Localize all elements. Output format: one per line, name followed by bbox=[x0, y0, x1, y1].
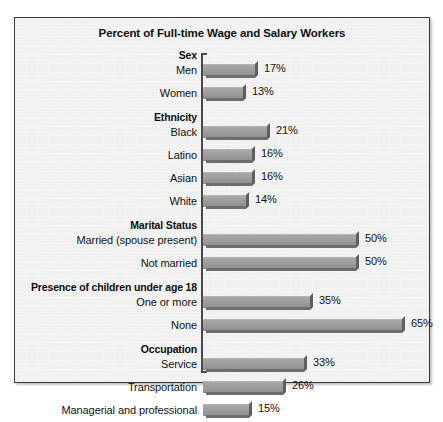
bar-row: Women13% bbox=[15, 86, 431, 109]
bar-row: Black21% bbox=[15, 125, 431, 148]
bar-row: Married (spouse present)50% bbox=[15, 233, 431, 256]
bar-shadow-end bbox=[243, 84, 246, 101]
bar-shadow-end bbox=[304, 355, 307, 372]
bar-value-label: 21% bbox=[276, 124, 298, 136]
category-label: Men bbox=[15, 63, 197, 77]
bar-shadow-end bbox=[283, 378, 286, 395]
bar-value-label: 14% bbox=[255, 193, 277, 205]
bar bbox=[203, 358, 304, 372]
group-heading: Occupation bbox=[15, 343, 197, 356]
bar-value-label: 33% bbox=[313, 356, 335, 368]
bar-shadow-end bbox=[356, 254, 359, 271]
bar-value-label: 35% bbox=[319, 294, 341, 306]
bar-row: Men17% bbox=[15, 63, 431, 86]
chart-title: Percent of Full-time Wage and Salary Wor… bbox=[15, 27, 429, 39]
bar-shadow-bottom bbox=[206, 183, 252, 186]
category-label: White bbox=[15, 194, 197, 208]
chart-panel: Percent of Full-time Wage and Salary Wor… bbox=[14, 17, 430, 383]
bar bbox=[203, 319, 402, 333]
category-label: One or more bbox=[15, 295, 197, 309]
bar-shadow-bottom bbox=[206, 206, 246, 209]
bar-shadow-bottom bbox=[206, 75, 255, 78]
bar-shadow-end bbox=[252, 146, 255, 163]
category-label: Latino bbox=[15, 148, 197, 162]
bar-shadow-end bbox=[356, 231, 359, 248]
bar-value-label: 50% bbox=[365, 255, 387, 267]
bar-shadow-bottom bbox=[206, 307, 310, 310]
bar-value-label: 50% bbox=[365, 232, 387, 244]
bar-row: Asian16% bbox=[15, 171, 431, 194]
group-heading: Marital Status bbox=[15, 219, 197, 232]
category-label: Women bbox=[15, 86, 197, 100]
bar-shadow-end bbox=[249, 401, 252, 418]
bar bbox=[203, 296, 310, 310]
bar-shadow-end bbox=[255, 61, 258, 78]
bar-value-label: 16% bbox=[261, 147, 283, 159]
bar bbox=[203, 381, 283, 395]
category-label: Not married bbox=[15, 256, 197, 270]
bar-row: Latino16% bbox=[15, 148, 431, 171]
bar-shadow-end bbox=[267, 123, 270, 140]
bar-shadow-end bbox=[252, 169, 255, 186]
category-label: Black bbox=[15, 125, 197, 139]
bar-shadow-bottom bbox=[206, 369, 304, 372]
bar-value-label: 65% bbox=[411, 317, 433, 329]
bar bbox=[203, 149, 252, 163]
category-label: Managerial and professional bbox=[15, 403, 197, 417]
bar-shadow-bottom bbox=[206, 268, 356, 271]
bar-row: None65% bbox=[15, 318, 431, 341]
bar bbox=[203, 126, 267, 140]
bar-shadow-end bbox=[402, 316, 405, 333]
bar-row: White14% bbox=[15, 194, 431, 217]
bar bbox=[203, 87, 243, 101]
bar-shadow-bottom bbox=[206, 160, 252, 163]
bar-row: Managerial and professional15% bbox=[15, 403, 431, 422]
bar-value-label: 13% bbox=[252, 85, 274, 97]
bar-value-label: 16% bbox=[261, 170, 283, 182]
bar-row: Not married50% bbox=[15, 256, 431, 279]
bar-shadow-bottom bbox=[206, 415, 249, 418]
bar-shadow-bottom bbox=[206, 98, 243, 101]
category-label: None bbox=[15, 318, 197, 332]
bar-shadow-bottom bbox=[206, 245, 356, 248]
bar-value-label: 26% bbox=[292, 379, 314, 391]
bar-shadow-end bbox=[246, 192, 249, 209]
bar bbox=[203, 195, 246, 209]
category-label: Transportation bbox=[15, 380, 197, 394]
bar-value-label: 15% bbox=[258, 402, 280, 414]
bar-row: One or more35% bbox=[15, 295, 431, 318]
group-heading: Presence of children under age 18 bbox=[15, 281, 197, 294]
bar-shadow-bottom bbox=[206, 330, 402, 333]
category-label: Service bbox=[15, 357, 197, 371]
bar bbox=[203, 64, 255, 78]
bar bbox=[203, 172, 252, 186]
plot-area: SexMen17%Women13%EthnicityBlack21%Latino… bbox=[15, 47, 431, 382]
bar-shadow-end bbox=[310, 293, 313, 310]
axis-tick-top bbox=[201, 53, 207, 55]
bar-value-label: 17% bbox=[264, 62, 286, 74]
category-label: Married (spouse present) bbox=[15, 233, 197, 247]
group-heading: Sex bbox=[15, 49, 197, 62]
bar bbox=[203, 257, 356, 271]
bar-row: Service33% bbox=[15, 357, 431, 380]
bar-shadow-bottom bbox=[206, 137, 267, 140]
category-label: Asian bbox=[15, 171, 197, 185]
bar bbox=[203, 234, 356, 248]
group-heading: Ethnicity bbox=[15, 111, 197, 124]
bar-row: Transportation26% bbox=[15, 380, 431, 403]
bar-shadow-bottom bbox=[206, 392, 283, 395]
bar bbox=[203, 404, 249, 418]
